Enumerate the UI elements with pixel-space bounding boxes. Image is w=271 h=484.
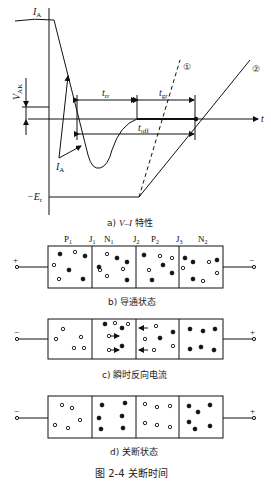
vak-arrow-down xyxy=(23,101,29,107)
hole-dot xyxy=(66,426,69,429)
right-polarity-d: + xyxy=(250,406,255,416)
panel-a-caption: a) V–I 特性 xyxy=(107,217,153,228)
electron-dot xyxy=(158,336,162,340)
conducting-state-panel: P1 J1 N1 J2 P2 J3 N2 + − b) 导通状态 xyxy=(13,234,256,307)
hole-dot xyxy=(158,254,161,257)
electron-dot xyxy=(125,260,129,264)
electron-dot xyxy=(121,426,125,430)
left-terminal-c xyxy=(15,337,18,340)
electron-dot xyxy=(120,414,124,418)
electron-dot xyxy=(81,277,85,281)
right-terminal-c xyxy=(252,337,255,340)
hole-dot xyxy=(126,322,129,325)
electron-dot xyxy=(212,348,216,352)
hole-dot xyxy=(143,421,146,424)
hole-dot xyxy=(147,268,150,271)
hole-dot xyxy=(57,277,60,280)
electron-dot xyxy=(99,427,103,431)
vak-label: VAK xyxy=(11,84,24,100)
hole-dot xyxy=(215,271,218,274)
hole-dot xyxy=(113,321,116,324)
electron-dot xyxy=(187,404,191,408)
panel-d-caption: d) 关断状态 xyxy=(110,446,158,457)
hole-dot xyxy=(105,252,108,255)
hole-dot xyxy=(107,334,110,337)
hole-dot xyxy=(168,425,171,428)
electron-dot xyxy=(215,258,219,262)
electron-dot xyxy=(188,347,192,351)
electron-dot xyxy=(193,427,197,431)
time-axis-label: t xyxy=(261,113,264,124)
region-label-p2: P2 xyxy=(151,234,159,245)
hole-dot xyxy=(60,403,63,406)
hole-dot xyxy=(73,250,76,253)
electron-dot xyxy=(97,416,101,420)
electron-dot xyxy=(199,345,203,349)
hole-dot xyxy=(143,337,146,340)
electron-dot xyxy=(120,326,124,330)
carriers-d xyxy=(53,401,212,431)
ia-bottom-label: IA xyxy=(55,161,64,174)
right-polarity-c: + xyxy=(250,327,255,337)
hole-dot xyxy=(79,335,82,338)
junction-label-j1: J1 xyxy=(89,234,96,245)
hole-dot xyxy=(72,346,75,349)
electron-dot xyxy=(208,424,212,428)
hole-dot xyxy=(201,279,204,282)
panel-c-caption: c) 瞬时反向电流 xyxy=(102,369,167,380)
electron-dot xyxy=(191,260,195,264)
figure-caption: 图 2-4 关断时间 xyxy=(95,467,168,479)
figure-canvas: t IA IA VAK trr tgr toff −Er xyxy=(0,0,271,484)
hole-dot xyxy=(121,267,124,270)
junction-label-j3: J3 xyxy=(176,234,183,245)
left-terminal-b xyxy=(15,265,18,268)
hole-dot xyxy=(61,327,64,330)
hole-dot xyxy=(154,324,157,327)
right-terminal-d xyxy=(252,416,255,419)
vak-arrow-up xyxy=(23,119,29,125)
electron-dot xyxy=(201,329,205,333)
left-polarity-c: − xyxy=(14,327,19,337)
electron-dot xyxy=(191,277,195,281)
hole-dot xyxy=(152,348,155,351)
voltage-curve-2 xyxy=(139,60,250,197)
hole-dot xyxy=(82,346,85,349)
electron-dot xyxy=(188,327,192,331)
vi-characteristic-panel: t IA IA VAK trr tgr toff −Er xyxy=(11,6,264,228)
region-label-n1: N1 xyxy=(104,234,114,245)
curve-1-label: ① xyxy=(183,62,191,72)
hole-dot xyxy=(107,348,110,351)
trr-label: trr xyxy=(102,87,110,100)
ia-pointer-right xyxy=(59,146,81,158)
hole-dot xyxy=(105,274,108,277)
off-state-panel: − + d) 关断状态 xyxy=(14,396,256,457)
right-polarity-b: − xyxy=(249,255,254,265)
electron-dot xyxy=(67,268,71,272)
ia-pointer-up xyxy=(59,76,68,158)
ia-top-label: IA xyxy=(32,6,41,19)
hole-dot xyxy=(143,402,146,405)
hole-dot xyxy=(70,406,73,409)
toff-label: toff xyxy=(138,122,149,135)
left-terminal-d xyxy=(15,416,18,419)
junction-label-j2: J2 xyxy=(133,234,140,245)
neg-er-label: −Er xyxy=(27,191,43,204)
hole-dot xyxy=(155,423,158,426)
electron-dot xyxy=(125,278,129,282)
hole-dot xyxy=(207,260,210,263)
toff-end-point xyxy=(194,117,198,121)
electron-dot xyxy=(213,327,217,331)
hole-dot xyxy=(53,423,56,426)
electron-dot xyxy=(161,263,165,267)
electron-dot xyxy=(115,256,119,260)
electron-dot xyxy=(183,256,187,260)
electron-dot xyxy=(187,420,191,424)
electron-dot xyxy=(103,322,107,326)
panel-b-caption: b) 导通状态 xyxy=(108,296,156,307)
electron-dot xyxy=(150,278,154,282)
electron-dot xyxy=(170,271,174,275)
electron-dot xyxy=(196,410,200,414)
hole-dot xyxy=(181,266,184,269)
electron-dot xyxy=(97,265,101,269)
hole-dot xyxy=(155,405,158,408)
